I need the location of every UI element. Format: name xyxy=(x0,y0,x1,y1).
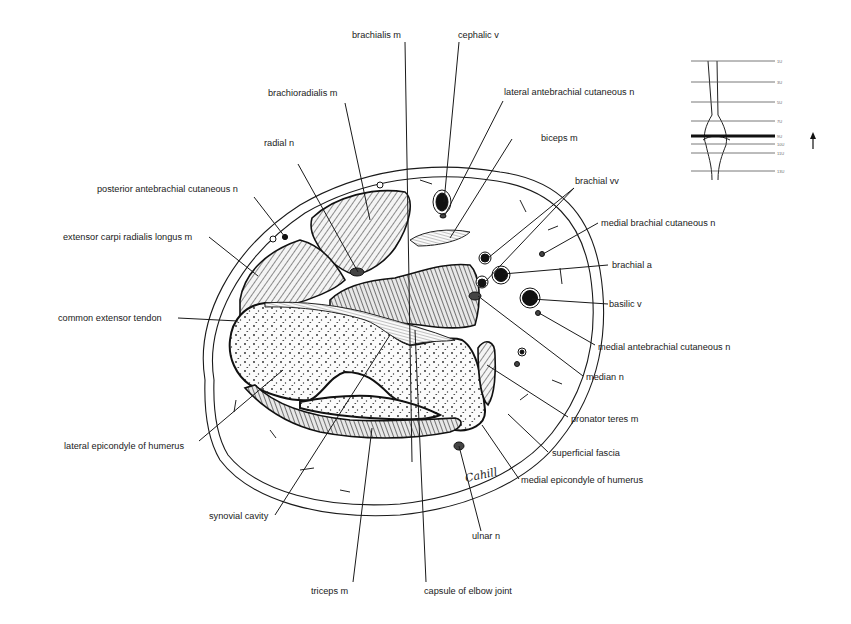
label-cephalic-v: cephalic v xyxy=(458,30,499,40)
label-ulnar-n: ulnar n xyxy=(472,531,500,541)
label-brachialis-m: brachialis m xyxy=(352,30,401,40)
label-brachial-a: brachial a xyxy=(612,260,653,270)
inset-level-5: 9U xyxy=(777,134,782,139)
label-lateral-antebrachial-cutaneous-n: lateral antebrachial cutaneous n xyxy=(504,87,634,97)
small-vessel xyxy=(270,236,276,242)
label-common-extensor-tendon: common extensor tendon xyxy=(58,313,162,323)
label-capsule-of-elbow-joint: capsule of elbow joint xyxy=(424,586,512,596)
inset-level-6: 10U xyxy=(777,142,784,147)
small-vessel-core xyxy=(520,350,524,354)
small-nerve xyxy=(515,362,520,367)
inset-level-1: 1U xyxy=(777,59,782,64)
median-nerve xyxy=(469,292,481,300)
brachial-vein-1 xyxy=(481,254,489,262)
label-medial-epicondyle-of-humerus: medial epicondyle of humerus xyxy=(521,475,643,485)
level-locator-inset: 1U 3U 5U 7U 9U 10U 11U 13U xyxy=(691,59,816,180)
inset-arm-sketch xyxy=(703,61,730,180)
inset-level-4: 7U xyxy=(777,119,782,124)
inset-level-8: 13U xyxy=(777,169,784,174)
label-posterior-antebrachial-cutaneous-n: posterior antebrachial cutaneous n xyxy=(97,184,238,194)
basilic-vein xyxy=(523,291,538,306)
inset-level-2: 3U xyxy=(777,80,782,85)
label-radial-n: radial n xyxy=(264,138,294,148)
biceps-tendon xyxy=(410,230,470,246)
small-vessel xyxy=(377,182,383,188)
label-median-n: median n xyxy=(586,372,624,382)
up-arrow-icon xyxy=(810,132,816,149)
label-synovial-cavity: synovial cavity xyxy=(209,511,269,521)
label-superficial-fascia: superficial fascia xyxy=(552,448,621,458)
brachial-vein-2 xyxy=(478,279,486,287)
label-extensor-carpi-radialis-longus-m: extensor carpi radialis longus m xyxy=(63,232,193,242)
label-lateral-epicondyle-of-humerus: lateral epicondyle of humerus xyxy=(64,441,184,451)
cephalic-vein xyxy=(436,193,448,211)
anatomy-figure: Cahill xyxy=(0,0,851,624)
label-biceps-m: biceps m xyxy=(541,133,578,143)
label-pronator-teres-m: pronator teres m xyxy=(571,414,639,424)
artist-signature: Cahill xyxy=(464,465,499,485)
label-medial-antebrachial-cutaneous-n: medial antebrachial cutaneous n xyxy=(598,342,730,352)
label-medial-brachial-cutaneous-n: medial brachial cutaneous n xyxy=(601,218,715,228)
inset-level-7: 11U xyxy=(777,151,784,156)
inset-level-3: 5U xyxy=(777,100,782,105)
label-triceps-m: triceps m xyxy=(311,586,349,596)
label-brachial-vv: brachial vv xyxy=(575,176,619,186)
label-basilic-v: basilic v xyxy=(609,299,642,309)
label-brachioradialis-m: brachioradialis m xyxy=(268,88,338,98)
